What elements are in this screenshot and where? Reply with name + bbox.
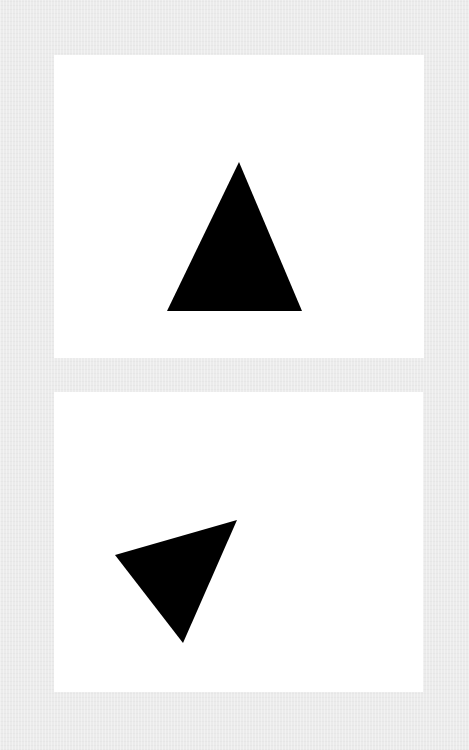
bottom-panel bbox=[54, 392, 423, 692]
rotated-triangle-icon bbox=[54, 392, 423, 692]
upright-triangle-icon bbox=[54, 55, 424, 358]
top-panel bbox=[54, 55, 424, 358]
